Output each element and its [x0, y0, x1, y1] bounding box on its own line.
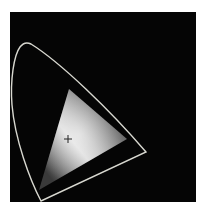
chromaticity-diagram [0, 0, 209, 217]
gamut-triangle-highlight [39, 89, 127, 190]
